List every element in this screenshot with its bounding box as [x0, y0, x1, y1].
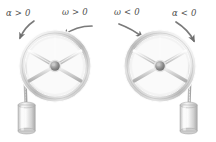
label-alpha-positive: α > 0 — [6, 8, 31, 18]
pulley-diagram: α > 0 ω > 0 — [0, 0, 216, 142]
label-alpha-negative: α < 0 — [172, 8, 197, 18]
label-omega-negative: ω < 0 — [114, 7, 140, 17]
pulley-wheel-right — [124, 30, 196, 102]
hanging-weight-right — [180, 102, 198, 134]
figure-canvas: α > 0 ω > 0 — [0, 0, 216, 142]
label-omega-positive: ω > 0 — [62, 7, 88, 17]
pulley-wheel-left — [19, 30, 91, 102]
hanging-weight-left — [18, 102, 36, 134]
